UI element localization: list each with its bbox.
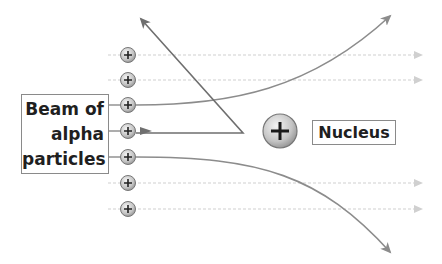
alpha-particle-icon [121,150,136,165]
reflected-path [136,19,243,133]
alpha-particle-icon [121,124,136,139]
nucleus-label: Nucleus [312,120,396,145]
alpha-particle-icon [121,202,136,217]
beam-connectors [109,105,120,157]
rutherford-scattering-diagram: Beam of alpha particles Nucleus [0,0,442,264]
alpha-particles [121,48,136,217]
beam-label-box: Beam of alpha particles [21,94,109,174]
beam-label-line-2: alpha [22,122,104,147]
beam-label-line-3: particles [22,147,104,172]
deflected-down-path [136,157,390,252]
alpha-particle-icon [121,98,136,113]
nucleus-icon [263,114,297,148]
alpha-particle-icon [121,176,136,191]
deflected-up-path [136,16,390,105]
beam-label-line-1: Beam of [22,97,104,122]
alpha-particle-icon [121,73,136,88]
alpha-particle-icon [121,48,136,63]
